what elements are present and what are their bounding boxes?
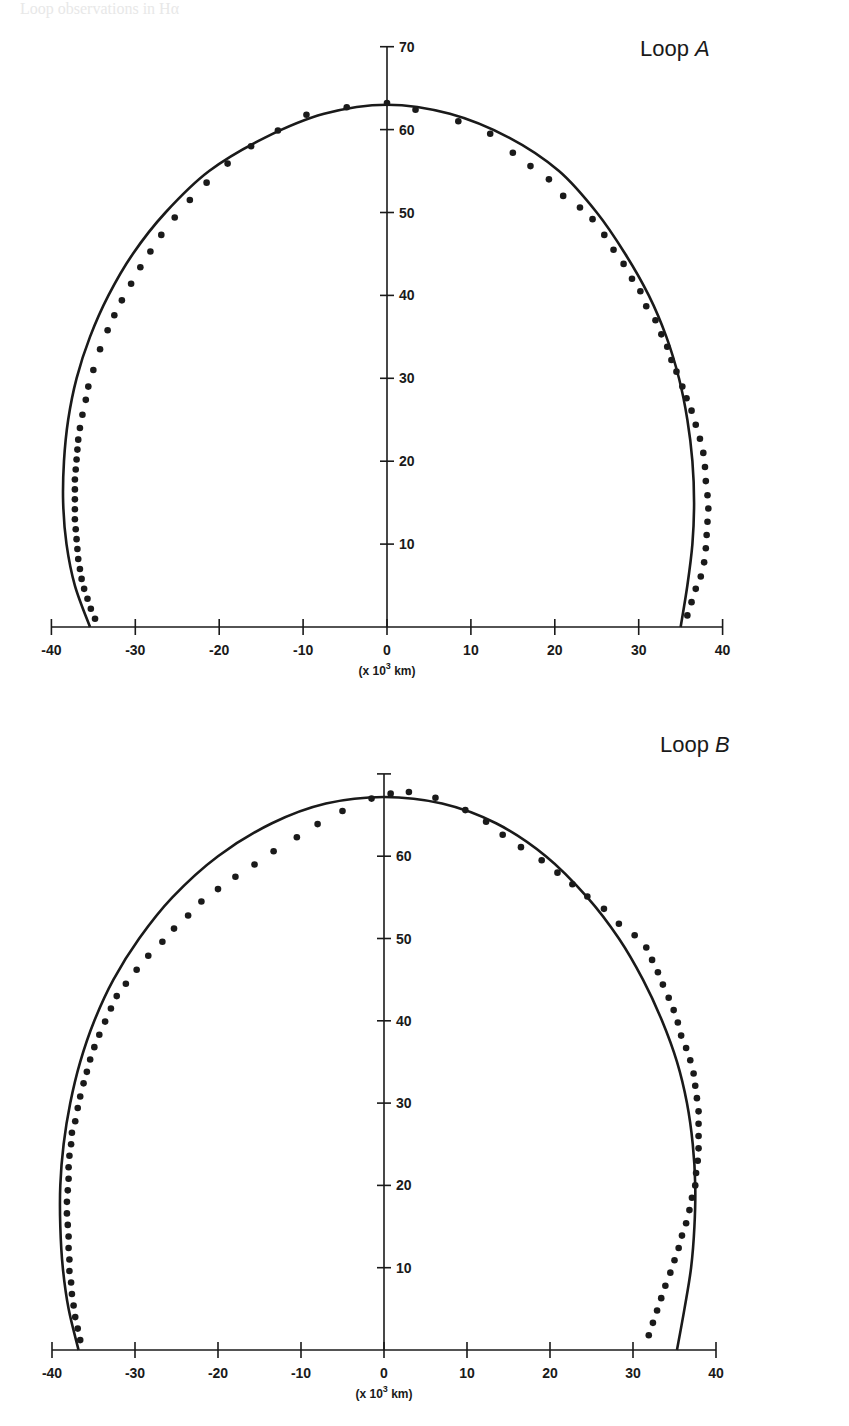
data-point [314,821,321,828]
data-point [387,790,394,797]
data-point [649,957,656,964]
y-tick-label: 50 [396,931,412,947]
data-point [601,906,608,913]
data-point [185,912,192,919]
data-point [123,980,130,987]
data-point [432,794,439,801]
x-tick-label: 0 [380,1365,388,1381]
data-point [91,1044,98,1051]
data-point [368,795,375,802]
data-point [215,886,222,893]
data-point [68,1141,75,1148]
data-point [65,1233,72,1240]
data-point [689,1194,696,1201]
data-point [675,1245,682,1252]
data-point [66,1152,73,1159]
data-point [108,1005,115,1012]
data-point [70,1302,77,1309]
data-point [692,1182,699,1189]
data-point [65,1176,72,1183]
data-point [667,1269,674,1276]
data-point [569,881,576,888]
x-tick-label: -30 [125,1365,145,1381]
data-point [64,1222,71,1229]
x-tick-label: 40 [708,1365,724,1381]
data-point [232,873,239,880]
data-point [198,898,205,905]
x-tick-label: 20 [542,1365,558,1381]
data-point [406,789,413,796]
x-tick-label: -40 [42,1365,62,1381]
data-point [270,848,277,855]
data-point [662,1283,669,1290]
data-point [65,1164,72,1171]
x-tick-label: -20 [208,1365,228,1381]
data-point [65,1245,72,1252]
data-point [462,807,469,814]
data-point [72,1118,79,1125]
data-point [665,994,672,1001]
data-point [77,1337,84,1344]
data-point [554,869,561,876]
data-point [671,1257,678,1264]
data-point [66,1256,73,1263]
data-point [616,920,623,927]
data-point [339,808,346,815]
x-tick-label: 30 [625,1365,641,1381]
data-point [96,1031,103,1038]
data-point [538,857,545,864]
data-point [102,1018,109,1025]
y-tick-label: 10 [396,1260,412,1276]
data-point [650,1320,657,1327]
data-point [695,1133,702,1140]
data-point [499,832,506,839]
data-point [631,932,638,939]
data-point [695,1108,702,1115]
data-point [694,1157,701,1164]
data-point [695,1120,702,1127]
data-point [584,893,591,900]
data-point [113,993,120,1000]
data-point [294,834,301,841]
data-point [72,1314,79,1321]
data-point [77,1093,84,1100]
data-point [64,1187,71,1194]
y-tick-label: 40 [396,1013,412,1029]
loop-title: Loop B [660,732,730,757]
data-point [483,818,490,825]
data-point [679,1232,686,1239]
data-point [643,944,650,951]
data-point [695,1145,702,1152]
data-point [159,938,166,945]
x-tick-label: -10 [291,1365,311,1381]
data-point [64,1199,71,1206]
data-point [74,1325,81,1332]
data-point [658,1295,665,1302]
observed-points [64,789,702,1344]
data-point [692,1083,699,1090]
data-point [68,1279,75,1286]
data-point [74,1105,81,1112]
data-point [660,981,667,988]
data-point [686,1207,693,1214]
data-point [84,1069,91,1076]
data-point [678,1032,685,1039]
data-point [655,969,662,976]
data-point [80,1080,87,1087]
x-axis-unit-label: (x 103 km) [355,1384,412,1401]
data-point [645,1332,652,1339]
y-tick-label: 30 [396,1095,412,1111]
x-tick-label: 10 [459,1365,475,1381]
data-point [693,1170,700,1177]
data-point [66,1268,73,1275]
data-point [145,952,152,959]
data-point [64,1210,71,1217]
data-point [683,1045,690,1052]
data-point [670,1007,677,1014]
y-tick-label: 60 [396,848,412,864]
data-point [69,1291,76,1298]
loop-b-chart: -40-30-20-10010203040(x 103 km)102030405… [0,0,849,1426]
data-point [251,861,258,868]
data-point [133,966,140,973]
data-point [171,925,178,932]
